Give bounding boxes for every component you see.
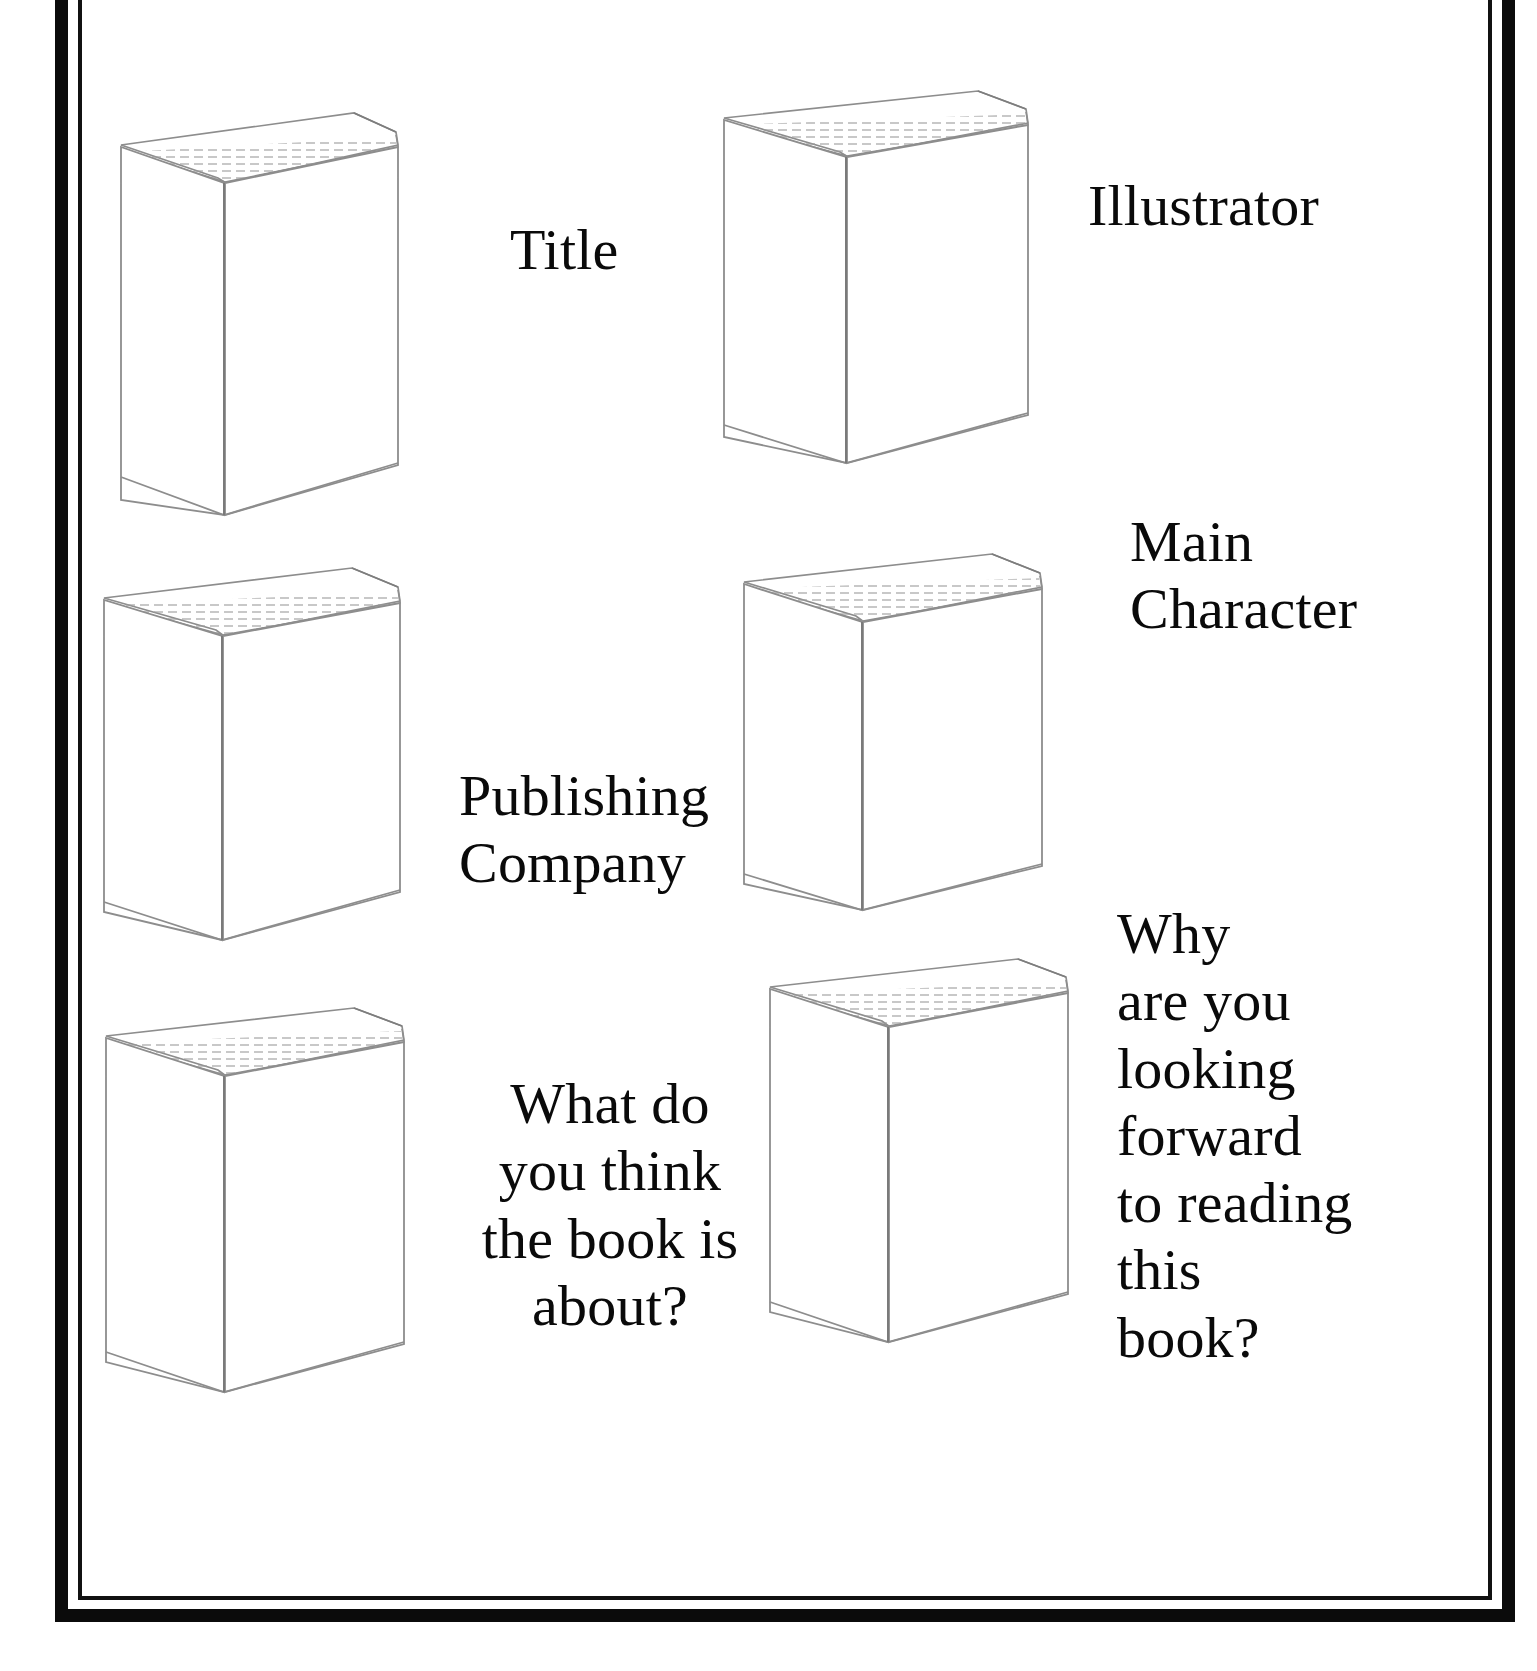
book-3d-icon [86, 1000, 464, 1400]
book-3d-icon [728, 548, 1096, 920]
prompt-label-what-is-book-about: What do you think the book is about? [460, 1070, 760, 1339]
prompt-label-illustrator: Illustrator [1088, 172, 1319, 239]
book-3d-icon [84, 560, 462, 950]
prompt-label-title: Title [510, 216, 618, 283]
worksheet-page: Title Illustrator Publishing Company Mai… [0, 0, 1537, 1671]
book-illustration-5 [86, 1000, 464, 1400]
book-3d-icon [752, 950, 1124, 1350]
book-illustration-2 [708, 85, 1083, 475]
book-illustration-3 [84, 560, 462, 950]
prompt-label-publishing-company: Publishing Company [459, 762, 759, 897]
prompt-label-why-looking-forward: Why are you looking forward to reading t… [1117, 900, 1427, 1371]
book-illustration-1 [96, 105, 476, 510]
book-3d-icon [708, 85, 1083, 475]
book-illustration-4 [728, 548, 1096, 920]
prompt-label-main-character: Main Character [1130, 508, 1440, 643]
book-3d-icon [96, 105, 476, 510]
book-illustration-6 [752, 950, 1124, 1350]
